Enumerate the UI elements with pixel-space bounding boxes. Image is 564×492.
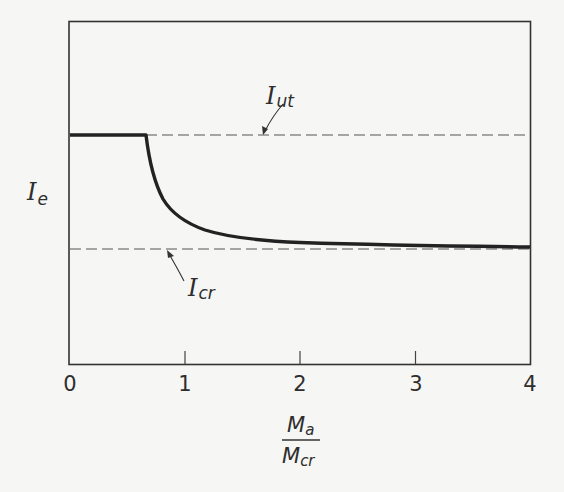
ie-curve — [70, 135, 530, 247]
icr-arrow-head-icon — [167, 250, 174, 258]
icr-arrow-line — [169, 254, 184, 281]
icr-label-main: I — [187, 274, 198, 302]
iut-label-main: I — [265, 82, 276, 110]
svg-text:Ma: Ma — [287, 413, 314, 439]
ylabel-main: I — [26, 178, 37, 206]
x-tick-label: 4 — [523, 372, 536, 396]
chart-svg: 0 1 2 3 4 Ie Iut Icr Ma Mcr — [0, 0, 564, 492]
iut-annotation: Iut — [262, 82, 295, 135]
plot-frame — [69, 22, 531, 365]
x-tick-label: 1 — [178, 372, 191, 396]
y-axis-label: Ie — [26, 178, 48, 209]
x-ticks — [185, 351, 416, 364]
xlabel-den-sub: cr — [300, 452, 315, 470]
icr-label-sub: cr — [198, 283, 215, 303]
ylabel-sub: e — [37, 189, 47, 209]
xlabel-den-main: M — [282, 444, 300, 468]
x-tick-label: 2 — [293, 372, 306, 396]
x-tick-label: 0 — [63, 372, 76, 396]
icr-annotation: Icr — [167, 250, 216, 303]
x-axis-label: Ma Mcr — [282, 413, 320, 470]
x-tick-labels: 0 1 2 3 4 — [63, 372, 536, 396]
xlabel-num-sub: a — [305, 421, 314, 439]
svg-text:Mcr: Mcr — [282, 444, 315, 470]
svg-text:Ie: Ie — [26, 178, 48, 209]
xlabel-num-main: M — [287, 413, 305, 437]
x-tick-label: 3 — [409, 372, 422, 396]
svg-text:Icr: Icr — [187, 274, 216, 303]
